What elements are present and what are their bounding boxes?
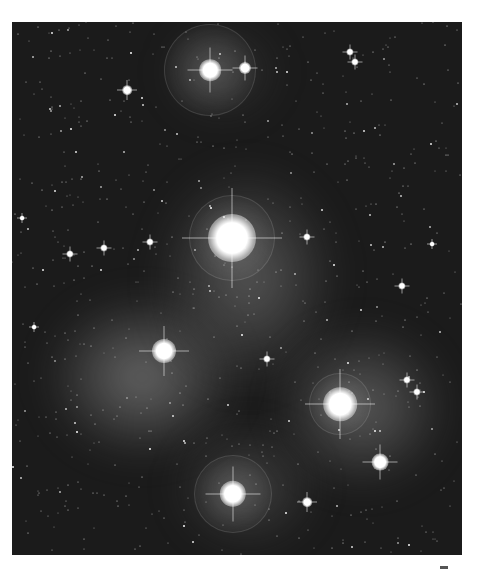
- field-star: [64, 333, 65, 334]
- field-star: [441, 460, 442, 461]
- field-star: [280, 347, 282, 349]
- field-star: [136, 282, 137, 283]
- field-star: [292, 154, 293, 155]
- field-star: [390, 552, 391, 553]
- field-star: [95, 424, 96, 425]
- field-star: [446, 26, 447, 27]
- field-star: [403, 220, 404, 221]
- field-star: [128, 174, 129, 175]
- field-star: [125, 206, 126, 207]
- field-star: [73, 107, 74, 108]
- field-star: [79, 25, 80, 26]
- field-star: [361, 512, 362, 513]
- field-star: [421, 335, 422, 336]
- field-star: [66, 434, 67, 435]
- field-star: [28, 532, 29, 533]
- field-star: [51, 97, 52, 98]
- star-field: [12, 22, 462, 555]
- field-star: [356, 158, 357, 159]
- field-star: [272, 446, 273, 447]
- field-star: [294, 273, 296, 275]
- field-star: [445, 44, 446, 45]
- bright-star: [152, 339, 176, 363]
- field-star: [269, 336, 270, 337]
- field-star: [285, 512, 287, 514]
- field-star: [365, 206, 366, 207]
- field-star: [298, 128, 299, 129]
- field-star: [146, 171, 147, 172]
- field-star: [374, 127, 376, 129]
- field-star: [223, 147, 224, 148]
- field-star: [438, 148, 439, 149]
- field-star: [384, 125, 385, 126]
- field-star: [359, 287, 360, 288]
- bright-star: [146, 238, 153, 245]
- field-star: [305, 303, 306, 304]
- field-star: [219, 297, 220, 298]
- field-star: [318, 366, 319, 367]
- field-star: [388, 65, 389, 66]
- field-star: [313, 548, 314, 549]
- field-star: [25, 521, 26, 522]
- field-star: [78, 266, 79, 267]
- field-star: [219, 377, 220, 378]
- bright-star: [303, 233, 310, 240]
- field-star: [121, 110, 122, 111]
- field-star: [316, 72, 317, 73]
- field-star: [333, 30, 334, 31]
- field-star: [372, 389, 373, 390]
- field-star: [63, 152, 64, 153]
- field-star: [253, 314, 254, 315]
- field-star: [281, 269, 282, 270]
- field-star: [281, 232, 282, 233]
- field-star: [459, 174, 460, 175]
- field-star: [25, 342, 26, 343]
- field-star: [237, 413, 238, 414]
- field-star: [185, 386, 186, 387]
- field-star: [391, 170, 392, 171]
- field-star: [17, 255, 18, 256]
- field-star: [346, 179, 347, 180]
- field-star: [432, 22, 433, 23]
- field-star: [410, 243, 411, 244]
- field-star: [100, 198, 101, 199]
- field-star: [141, 413, 142, 414]
- field-star: [78, 197, 79, 198]
- bright-star: [122, 85, 132, 95]
- field-star: [87, 121, 88, 122]
- field-star: [431, 428, 433, 430]
- field-star: [389, 177, 390, 178]
- field-star: [316, 311, 317, 312]
- field-star: [67, 229, 68, 230]
- field-star: [236, 326, 237, 327]
- field-star: [222, 549, 223, 550]
- field-star: [139, 438, 140, 439]
- field-star: [39, 417, 40, 418]
- field-star: [381, 506, 382, 507]
- field-star: [81, 178, 82, 179]
- field-star: [354, 133, 355, 134]
- field-star: [314, 171, 315, 172]
- field-star: [38, 26, 39, 27]
- field-star: [86, 22, 87, 23]
- field-star: [422, 22, 423, 23]
- field-star: [141, 97, 143, 99]
- field-star: [64, 117, 65, 118]
- field-star: [135, 548, 136, 549]
- field-star: [77, 482, 78, 483]
- field-star: [158, 511, 159, 512]
- field-star: [31, 183, 32, 184]
- field-star: [297, 464, 298, 465]
- field-star: [391, 99, 392, 100]
- field-star: [84, 277, 85, 278]
- field-star: [243, 114, 244, 115]
- field-star: [70, 103, 71, 104]
- field-star: [419, 406, 420, 407]
- field-star: [302, 204, 303, 205]
- field-star: [411, 153, 412, 154]
- field-star: [108, 39, 109, 40]
- field-star: [63, 282, 64, 283]
- field-star: [238, 443, 239, 444]
- field-star: [137, 282, 138, 283]
- field-star: [65, 165, 66, 166]
